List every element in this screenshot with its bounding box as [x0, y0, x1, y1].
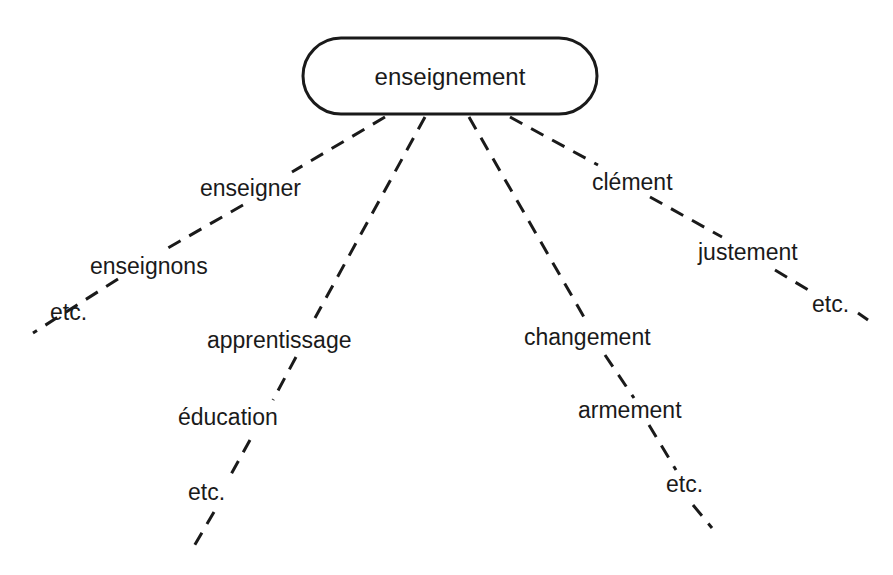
branch-word-label: armement [578, 397, 682, 423]
branch-word-label: justement [697, 239, 798, 265]
branch-word-label: etc. [188, 479, 225, 505]
dashed-connector [469, 117, 588, 324]
dashed-connector [273, 357, 296, 400]
branch-word-label: changement [524, 324, 651, 350]
branch-rhyme [510, 117, 868, 320]
branch-word-label: éducation [178, 404, 278, 430]
labels-layer: enseignerenseignonsetc.apprentissageéduc… [50, 169, 849, 505]
root-node: enseignement [303, 38, 597, 114]
branch-suffix [469, 117, 712, 528]
branch-word-label: etc. [666, 471, 703, 497]
dashed-connector [650, 197, 722, 237]
dashed-connector [858, 313, 868, 320]
dashed-connector [693, 505, 712, 528]
dashed-connector [193, 512, 214, 548]
dashed-connector [292, 117, 385, 172]
semantic-network-diagram: enseignement enseignerenseignonsetc.appr… [0, 0, 893, 575]
root-node-label: enseignement [375, 63, 526, 90]
dashed-connector [168, 205, 243, 248]
branch-word-label: enseignons [90, 253, 208, 279]
dashed-connector [510, 117, 598, 165]
branches-layer [33, 117, 868, 548]
dashed-connector [605, 355, 634, 398]
dashed-connector [649, 425, 676, 470]
branch-word-label: clément [592, 169, 673, 195]
dashed-connector [229, 440, 250, 478]
branch-word-label: etc. [812, 291, 849, 317]
branch-word-label: etc. [50, 299, 87, 325]
branch-word-label: apprentissage [207, 327, 352, 353]
branch-word-label: enseigner [200, 175, 301, 201]
dashed-connector [775, 270, 810, 291]
